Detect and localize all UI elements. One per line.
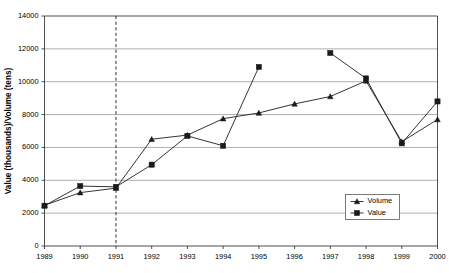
square-marker [328,50,333,55]
square-marker [354,210,359,215]
y-axis-title: Value (thousands)/Volume (tens) [4,68,13,195]
series-markers [42,50,441,208]
y-axis-tick-labels: 02000400060008000100001200014000 [18,11,39,250]
y-tick-label: 12000 [18,44,39,53]
y-tick-label: 10000 [18,77,39,86]
line-chart: 02000400060008000100001200014000 1989199… [0,0,449,273]
square-marker [78,183,83,188]
x-tick-label: 1990 [72,252,88,261]
square-marker [42,203,47,208]
x-tick-label: 1998 [358,252,374,261]
x-tick-label: 1992 [143,252,159,261]
square-marker [363,76,368,81]
y-tick-label: 2000 [22,208,38,217]
y-tick-label: 0 [34,241,38,250]
x-tick-label: 1991 [108,252,124,261]
square-marker [185,133,190,138]
x-tick-label: 1999 [394,252,410,261]
chart-container: 02000400060008000100001200014000 1989199… [0,0,449,273]
y-tick-label: 6000 [22,142,38,151]
square-marker [256,64,261,69]
x-tick-label: 1993 [179,252,195,261]
triangle-marker [435,117,441,122]
x-tick-label: 1995 [251,252,267,261]
square-marker [435,99,440,104]
square-marker [149,162,154,167]
x-tick-label: 1996 [286,252,302,261]
x-tick-label: 1989 [36,252,52,261]
square-marker [399,141,404,146]
x-axis-tick-labels: 1989199019911992199319941995199619971998… [36,252,445,261]
square-marker [221,143,226,148]
x-tick-label: 1997 [322,252,338,261]
chart-legend: VolumeValue [346,195,400,220]
x-tick-label: 2000 [429,252,445,261]
y-tick-label: 4000 [22,175,38,184]
x-tick-label: 1994 [215,252,231,261]
series-lines [45,53,438,206]
triangle-marker [328,94,334,99]
y-tick-label: 8000 [22,110,38,119]
legend-label: Volume [368,196,393,205]
gridlines [45,49,438,213]
square-marker [113,184,118,189]
y-tick-label: 14000 [18,11,39,20]
legend-label: Value [368,208,386,217]
